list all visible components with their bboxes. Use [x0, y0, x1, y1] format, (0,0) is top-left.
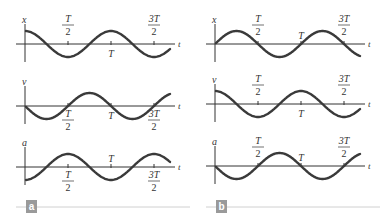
panel-b: xtT2T3T2vtT2T3T2atT2T3T2b	[206, 13, 380, 213]
t-axis-label: t	[368, 39, 371, 49]
graph-a: atT2T3T2	[16, 137, 181, 193]
tick-label-denominator: 2	[342, 86, 347, 97]
oscillation-diagram: xtT2T3T2vtT2T3T2atT2T3T2axtT2T3T2vtT2T3T…	[0, 0, 384, 221]
tick-label-numerator: T	[65, 169, 72, 180]
tick-label-denominator: 2	[256, 148, 261, 159]
y-axis-label: v	[212, 74, 217, 85]
tick-label-denominator: 2	[152, 182, 157, 193]
tick-label-T: T	[298, 108, 305, 119]
tick-label-numerator: T	[65, 108, 72, 119]
tick-label-numerator: 3T	[338, 13, 351, 24]
tick-label-denominator: 2	[342, 148, 347, 159]
tick-label-numerator: T	[255, 13, 262, 24]
graph-v: vtT2T3T2	[206, 73, 371, 122]
tick-label-numerator: 3T	[338, 73, 351, 84]
tick-label-T: T	[108, 48, 115, 59]
y-axis-label: x	[21, 14, 27, 25]
tick-label-denominator: 2	[152, 121, 157, 132]
tick-label-denominator: 2	[256, 26, 261, 37]
graph-x: xtT2T3T2	[206, 13, 371, 62]
tick-label-denominator: 2	[66, 121, 71, 132]
tick-label-numerator: T	[255, 73, 262, 84]
t-axis-label: t	[178, 101, 181, 111]
y-axis-label: x	[211, 14, 217, 25]
tick-label-T: T	[108, 153, 115, 164]
panel-badge-label: a	[29, 201, 35, 212]
tick-label-T: T	[298, 152, 305, 163]
tick-label-T: T	[108, 110, 115, 121]
t-axis-label: t	[178, 39, 181, 49]
t-axis-label: t	[368, 99, 371, 109]
graph-a: atT2T3T2	[206, 135, 371, 184]
tick-label-numerator: 3T	[148, 13, 161, 24]
panel-a: xtT2T3T2vtT2T3T2atT2T3T2a	[16, 13, 190, 213]
graph-v: vtT2T3T2	[16, 76, 181, 132]
graph-x: xtT2T3T2	[16, 13, 181, 62]
tick-label-denominator: 2	[66, 182, 71, 193]
t-axis-label: t	[368, 161, 371, 171]
tick-label-numerator: 3T	[338, 135, 351, 146]
tick-label-denominator: 2	[66, 26, 71, 37]
y-axis-label: a	[22, 137, 27, 148]
tick-label-numerator: T	[65, 13, 72, 24]
tick-label-T: T	[298, 30, 305, 41]
tick-label-denominator: 2	[256, 86, 261, 97]
tick-label-numerator: 3T	[148, 169, 161, 180]
tick-label-numerator: T	[255, 135, 262, 146]
y-axis-label: v	[22, 76, 27, 87]
tick-label-denominator: 2	[342, 26, 347, 37]
t-axis-label: t	[178, 162, 181, 172]
panel-badge-label: b	[218, 201, 224, 212]
y-axis-label: a	[212, 136, 217, 147]
tick-label-denominator: 2	[152, 26, 157, 37]
